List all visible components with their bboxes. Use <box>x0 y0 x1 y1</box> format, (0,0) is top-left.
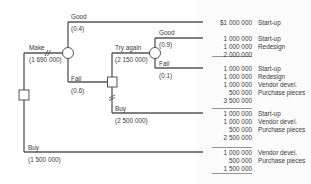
outcome5-total: 1 500 000 <box>202 165 252 172</box>
outcome4-item-1: Start-up <box>258 110 281 117</box>
try-again-label: Try again <box>115 44 141 51</box>
outcome2-amount-1: 1 000 000 <box>202 35 252 42</box>
outcome2-item-2: Redesign <box>258 43 285 50</box>
outcome3-amount-1: 1 000 000 <box>202 65 252 72</box>
outcome4-amount-2: 1 000 000 <box>202 118 252 125</box>
outcome5-amount-1: 1 000 000 <box>202 149 252 156</box>
outcome3-item-1: Start-up <box>258 65 281 72</box>
outcome3-amount-2: 1 000 000 <box>202 73 252 80</box>
outcome4-amount-3: 500 000 <box>202 126 252 133</box>
buy-label: Buy <box>28 144 39 151</box>
outcome3-item-3: Vendor devel. <box>258 81 297 88</box>
outcome2-amount-2: 1 000 000 <box>202 43 252 50</box>
outcome3-amount-4: 500 000 <box>202 89 252 96</box>
try-again-cost: (2 150 000) <box>115 56 148 63</box>
make-label: Make <box>29 44 45 51</box>
fail2-probability: (0.1) <box>159 72 172 79</box>
try-again-chance-node <box>150 48 161 59</box>
outcome1-item: Start-up <box>258 19 281 26</box>
good-probability: (0.4) <box>71 25 84 32</box>
outcome4-item-3: Purchase pieces <box>258 126 305 133</box>
fail-probability: (0.6) <box>71 87 84 94</box>
make-cost: (1 690 000) <box>29 56 62 63</box>
outcome2-total: 2 000 000 <box>202 51 252 58</box>
buy2-cost: (2 500 000) <box>115 117 148 124</box>
outcome3-item-2: Redesign <box>258 73 285 80</box>
buy2-label: Buy <box>115 105 126 112</box>
outcome5-amount-2: 500 000 <box>202 157 252 164</box>
outcome4-total: 2 500 000 <box>202 134 252 141</box>
outcome1-amount: $1 000 000 <box>202 19 252 26</box>
outcome3-total: 3 500 000 <box>202 97 252 104</box>
outcome2-item-1: Start-up <box>258 35 281 42</box>
good2-label: Good <box>159 29 175 36</box>
outcome5-item-1: Vendor devel. <box>258 149 297 156</box>
good-label: Good <box>71 13 87 20</box>
make-chance-node <box>63 48 74 59</box>
root-decision-node <box>19 90 29 100</box>
fail-label: Fail <box>71 75 81 82</box>
good2-probability: (0.9) <box>159 41 172 48</box>
outcome3-item-4: Purchase pieces <box>258 89 305 96</box>
outcome4-amount-1: 1 000 000 <box>202 110 252 117</box>
fail2-label: Fail <box>159 60 169 67</box>
fail-decision-node <box>108 77 118 87</box>
outcome3-amount-3: 1 000 000 <box>202 81 252 88</box>
buy-cost: (1 500 000) <box>28 156 61 163</box>
outcome4-item-2: Vendor devel. <box>258 118 297 125</box>
outcome5-item-2: Purchase pieces <box>258 157 305 164</box>
